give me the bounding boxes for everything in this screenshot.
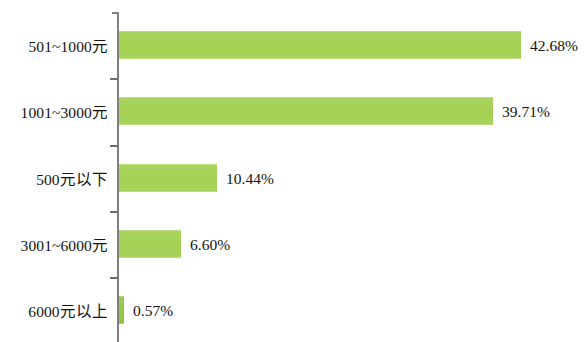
bar-row: 501~1000元 42.68%	[0, 12, 584, 78]
category-label: 500元以下	[0, 167, 108, 189]
bar-row: 1001~3000元 39.71%	[0, 78, 584, 144]
bar-segment	[119, 231, 181, 258]
bar-segment	[119, 98, 493, 125]
bar-segment	[119, 32, 521, 59]
bar-segment	[119, 165, 217, 192]
bar-group: 42.68%	[119, 32, 578, 59]
bar-value-label: 0.57%	[133, 301, 173, 319]
category-label: 6000元以上	[0, 299, 108, 321]
bar-segment	[119, 297, 124, 324]
bar-value-label: 10.44%	[226, 169, 274, 187]
bar-group: 39.71%	[119, 98, 550, 125]
bar-row: 3001~6000元 6.60%	[0, 211, 584, 277]
bar-value-label: 42.68%	[530, 36, 578, 54]
bar-value-label: 6.60%	[190, 235, 230, 253]
bar-group: 0.57%	[119, 297, 173, 324]
bar-row: 500元以下 10.44%	[0, 145, 584, 211]
category-label: 1001~3000元	[0, 100, 108, 122]
category-label: 501~1000元	[0, 34, 108, 56]
bar-value-label: 39.71%	[502, 102, 550, 120]
horizontal-bar-chart: 501~1000元 42.68% 1001~3000元 39.71% 500元以…	[0, 0, 584, 342]
bar-group: 10.44%	[119, 165, 274, 192]
bar-group: 6.60%	[119, 231, 230, 258]
category-label: 3001~6000元	[0, 233, 108, 255]
bar-row: 6000元以上 0.57%	[0, 277, 584, 342]
